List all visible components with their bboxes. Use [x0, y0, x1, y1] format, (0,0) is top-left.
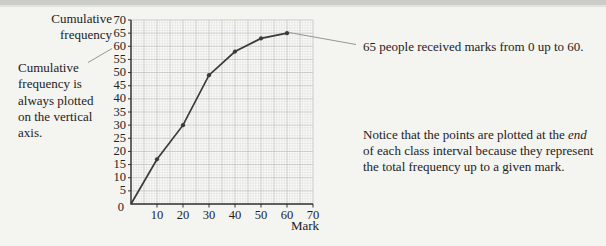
y-axis-callout-line: axis.: [18, 125, 93, 141]
y-axis-tick-label: 40: [96, 91, 126, 106]
y-axis-tick-label: 25: [96, 131, 126, 146]
y-axis-tick-label: 65: [96, 26, 126, 41]
y-axis-callout-line: always plotted: [18, 93, 93, 109]
y-axis-tick-label: 70: [96, 13, 126, 28]
data-point: [259, 36, 263, 40]
data-point: [285, 31, 289, 35]
bottom-note-line: the total frequency up to a given mark.: [363, 159, 593, 175]
bottom-note-text: of each class interval because they repr…: [363, 143, 593, 158]
y-axis-callout-line: on the vertical: [18, 109, 93, 125]
x-axis-tick-label: 30: [196, 208, 222, 223]
y-axis-tick-label: 60: [96, 39, 126, 54]
y-axis-tick-label: 20: [96, 144, 126, 159]
y-axis-callout-line: frequency is: [18, 76, 93, 92]
x-axis-tick-label: 60: [274, 208, 300, 223]
x-axis-tick-label: 50: [248, 208, 274, 223]
bottom-note-line: of each class interval because they repr…: [363, 143, 593, 159]
bottom-note-emphasis: end: [568, 127, 587, 142]
y-axis-tick-label: 35: [96, 105, 126, 120]
y-axis-tick-label: 30: [96, 118, 126, 133]
bottom-note-text: the total frequency up to a given mark.: [363, 159, 564, 174]
y-axis-callout-line: Cumulative: [18, 60, 93, 76]
bottom-note: Notice that the points are plotted at th…: [363, 127, 593, 174]
bottom-note-line: Notice that the points are plotted at th…: [363, 127, 593, 143]
data-point: [207, 73, 211, 77]
y-axis-tick-label: 10: [96, 170, 126, 185]
x-axis-tick-label: 40: [222, 208, 248, 223]
x-axis-tick-label: 10: [144, 208, 170, 223]
x-axis-tick-label: 20: [170, 208, 196, 223]
data-point: [233, 49, 237, 53]
y-axis-tick-label: 45: [96, 78, 126, 93]
point-annotation: 65 people received marks from 0 up to 60…: [363, 39, 584, 55]
y-axis-tick-label: 5: [96, 183, 126, 198]
bottom-note-text: Notice that the points are plotted at th…: [363, 127, 568, 142]
origin-tick-label: 0: [100, 200, 124, 215]
y-axis-tick-label: 55: [96, 52, 126, 67]
data-point: [181, 123, 185, 127]
y-axis-tick-label: 50: [96, 65, 126, 80]
x-axis-tick-label: 70: [300, 208, 326, 223]
y-axis-callout: Cumulativefrequency isalways plottedon t…: [18, 60, 93, 141]
data-point: [155, 157, 159, 161]
textbook-figure: Cumulative frequency Cumulativefrequency…: [0, 0, 606, 246]
y-axis-tick-label: 15: [96, 157, 126, 172]
